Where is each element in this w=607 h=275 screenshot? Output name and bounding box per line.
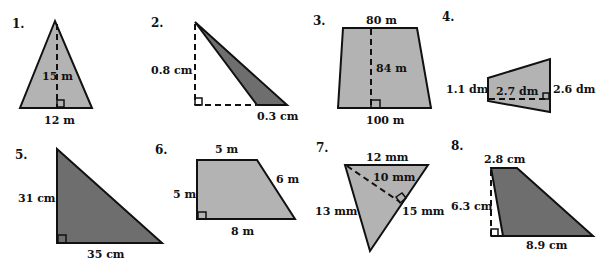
problem-7: 7. 12 mm 10 mm 13 mm 15 mm [315,141,445,251]
height-label: 0.8 cm [151,64,193,77]
bottom-label: 8 m [231,225,254,238]
problem-number: 3. [313,14,326,28]
top-label: 80 m [366,14,397,27]
problem-number: 2. [151,16,164,30]
top-label: 5 m [215,143,238,156]
base-label: 12 m [44,114,75,127]
triangle-shape [57,149,162,243]
problem-6: 6. 5 m 5 m 6 m 8 m [155,143,299,238]
height-label: 15 m [42,70,73,83]
geometry-worksheet: 1. 15 m 12 m 2. 0.8 cm 0.3 cm 3. 80 m 84… [0,0,607,275]
top-label: 12 mm [366,151,409,164]
height-label: 2.7 dm [496,85,539,98]
height-label: 10 mm [373,171,416,184]
problem-3: 3. 80 m 84 m 100 m [313,14,431,127]
height-label: 6.3 cm [451,200,493,213]
base-label: 35 cm [87,248,125,261]
left-label: 5 m [173,188,196,201]
problem-8: 8. 2.8 cm 6.3 cm 8.9 cm [451,139,593,252]
problem-number: 4. [442,10,455,24]
problem-number: 5. [15,148,28,162]
trapezoid-shape [197,160,295,219]
problem-number: 8. [451,139,464,153]
bottom-label: 100 m [366,114,405,127]
left-label: 1.1 dm [446,83,489,96]
problem-5: 5. 31 cm 35 cm [15,148,162,261]
base-label: 15 mm [402,205,445,218]
triangle-shape [195,22,287,105]
right-angle-icon [491,229,498,236]
right-label: 2.6 dm [553,83,596,96]
problem-number: 6. [155,143,168,157]
right-angle-icon [195,98,202,105]
trapezoid-shape [491,168,593,236]
slant-label: 6 m [276,173,299,186]
bottom-label: 8.9 cm [526,239,568,252]
height-label: 84 m [376,62,407,75]
left-label: 13 mm [315,205,358,218]
problem-2: 2. 0.8 cm 0.3 cm [151,16,299,123]
problem-number: 7. [316,141,329,155]
problem-number: 1. [12,17,25,31]
base-label: 0.3 cm [257,110,299,123]
problem-4: 4. 1.1 dm 2.7 dm 2.6 dm [442,10,596,112]
height-label: 31 cm [18,192,56,205]
problem-1: 1. 15 m 12 m [12,17,92,127]
top-label: 2.8 cm [484,153,526,166]
